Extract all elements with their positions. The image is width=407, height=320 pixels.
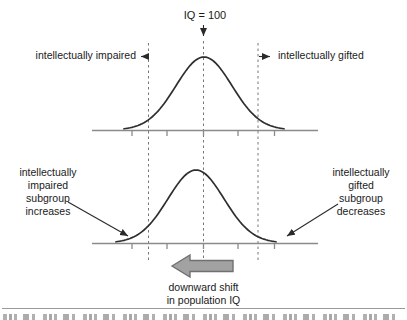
diagram-canvas (0, 0, 407, 320)
impaired-region-label: intellectually impaired (18, 49, 136, 62)
downward-shift-arrow-icon (172, 255, 233, 277)
dashed-cutoff-lines (149, 41, 259, 263)
iq-shift-diagram: IQ = 100 intellectually impaired intelle… (0, 0, 407, 320)
mean-label: IQ = 100 (170, 9, 240, 22)
caption-divider (2, 308, 405, 309)
cropped-caption-fragment (3, 314, 403, 320)
gifted-subgroup-label: intellectually gifted subgroup decreases (319, 166, 403, 218)
downward-shift-label: downward shift in population IQ (143, 281, 264, 307)
bottom-bell-curve (116, 170, 276, 242)
gifted-region-label: intellectually gifted (278, 49, 398, 62)
impaired-subgroup-label: intellectually impaired subgroup increas… (6, 166, 90, 218)
